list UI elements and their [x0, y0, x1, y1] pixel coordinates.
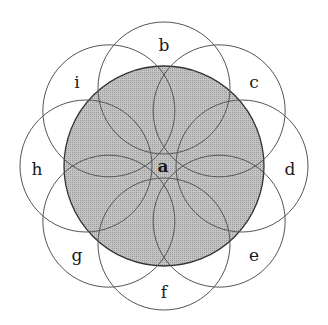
label-g: g: [72, 245, 83, 265]
label-h: h: [32, 159, 43, 179]
label-a: a: [157, 156, 168, 176]
label-f: f: [161, 282, 169, 302]
label-i: i: [74, 72, 80, 92]
label-b: b: [159, 35, 170, 55]
circle-diagram: bcdefghi a: [0, 0, 328, 325]
label-e: e: [249, 245, 259, 265]
label-c: c: [249, 72, 259, 92]
label-d: d: [285, 159, 296, 179]
